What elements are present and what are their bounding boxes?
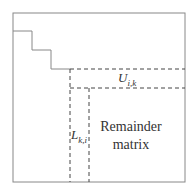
u-block-base: U [118, 70, 127, 85]
matrix-diagram [0, 0, 193, 192]
remainder-matrix-label: Remainder matrix [96, 118, 166, 154]
remainder-line-1: Remainder [96, 118, 166, 136]
staircase-boundary [13, 31, 70, 69]
l-block-subscript: k,i [78, 135, 87, 145]
outer-matrix-frame [13, 13, 185, 182]
u-block-subscript: i,k [127, 78, 136, 88]
l-block-label: Lk,i [71, 127, 87, 145]
l-block-outline [70, 69, 89, 182]
u-block-label: Ui,k [118, 70, 136, 88]
remainder-line-2: matrix [96, 136, 166, 154]
